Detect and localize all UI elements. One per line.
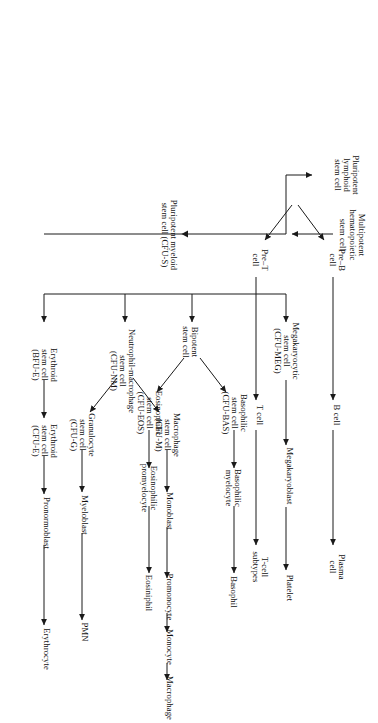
node-megakaryoblast: Megakaryoblast [285, 440, 294, 512]
node-myeloblast: Myeloblast [80, 490, 89, 540]
node-plasma-cell: Plasma cell [328, 545, 346, 589]
node-pronormoblast: Pronormoblast [42, 492, 51, 554]
node-pluripotent-lymphoid-stem-cell: Pluripotent lymphoid stem cell [333, 133, 360, 217]
node-pmn: PMN [80, 615, 89, 649]
node-basophil: Basophil [229, 570, 238, 614]
node-basophilic-stem-cell: Basophilic stem cell (CFU-BAS) [221, 390, 248, 436]
node-t-cell: T cell [255, 395, 264, 435]
node-pre-t-cell: Pre–T cell [251, 240, 269, 280]
node-erythroid-stem-cell-cfu-e: Erythroid stem cell (CFU-E) [31, 418, 58, 464]
node-promonocyte: Promonocyte [165, 572, 174, 622]
node-granulocyte-stem-cell: Granulocyte stem cell (CFU-G) [69, 412, 96, 458]
node-pluripotent-myeloid-stem-cell: Pluripotent myeloid stem cell (CFU-S) [160, 160, 178, 310]
node-bipotent-stem-cell: Bipotent stem cell [181, 320, 199, 364]
node-megakaryocytic-stem-cell: Megakaryocytic stem cell (CFU-MEG) [273, 320, 300, 382]
node-eosiniphil: Eosiniphil [144, 570, 153, 616]
node-erythrocyte: Erythrocyte [42, 622, 51, 676]
node-macrophage-stem-cell: Macrophage stem cell (CFU-M) [154, 412, 181, 458]
node-erythroid-stem-cell-bfu-e: Erythroid stem cell (BFU-E) [31, 342, 58, 388]
node-t-cell-subtypes: T-cell subtypes [251, 543, 269, 591]
node-basophilic-myelocyte: Basophilic myelocyte [224, 465, 242, 511]
node-eosinophilic-promyelocyte: Eosinophilic promyelocyte [140, 463, 158, 513]
node-platelet: Platelet [285, 568, 294, 608]
node-macrophage: Macrophage [165, 673, 174, 723]
node-b-cell: B cell [332, 395, 341, 435]
node-neutrophil-macrophage-stem-cell: Neutrophil-macrophage stem cell (CFU-NM) [109, 316, 136, 426]
node-monoblast: Monoblast [165, 488, 174, 534]
node-pre-b-cell: Pre–B cell [328, 240, 346, 280]
node-monocyte: Monocyte [165, 625, 174, 669]
